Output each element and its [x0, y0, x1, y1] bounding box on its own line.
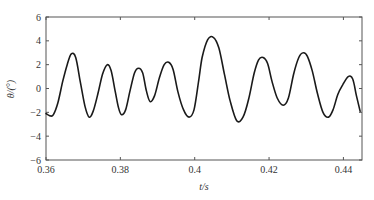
y-axis-label: θ/(°): [5, 79, 17, 98]
y-axis-ticks: −6−4−20246: [30, 12, 362, 166]
y-tick-label: 2: [36, 59, 41, 70]
y-tick-label: 0: [36, 83, 41, 94]
y-tick-label: −4: [30, 131, 41, 142]
x-tick-label: 0.36: [37, 164, 55, 175]
theta-line-series: [46, 37, 360, 122]
x-tick-label: 0.38: [112, 164, 130, 175]
y-tick-label: −2: [30, 107, 41, 118]
x-tick-label: 0.4: [188, 164, 201, 175]
chart: −6−4−20246 0.360.380.40.420.44 t/s θ/(°): [0, 0, 374, 200]
x-axis-ticks: 0.360.380.40.420.44: [37, 17, 352, 175]
x-tick-label: 0.42: [260, 164, 278, 175]
x-axis-label: t/s: [199, 181, 209, 192]
y-tick-label: 6: [36, 12, 41, 23]
plot-border: [46, 17, 362, 160]
x-tick-label: 0.44: [335, 164, 353, 175]
plot-frame: [46, 17, 362, 160]
y-tick-label: 4: [36, 35, 41, 46]
